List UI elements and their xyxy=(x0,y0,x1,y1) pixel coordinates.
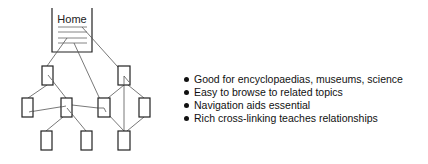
bullet-item: Easy to browse to related topics xyxy=(182,86,403,99)
page-nodes xyxy=(22,66,150,150)
home-label: Home xyxy=(57,13,86,25)
page-node xyxy=(22,98,33,117)
page-node xyxy=(61,98,72,117)
bullet-dot-icon xyxy=(184,77,189,82)
bullet-dot-icon xyxy=(184,90,189,95)
page-node xyxy=(81,131,92,150)
bullet-dot-icon xyxy=(184,103,189,108)
bullet-dot-icon xyxy=(184,116,189,121)
page-node xyxy=(41,131,52,150)
page-node xyxy=(139,98,150,117)
feature-bullet-list: Good for encyclopaedias, museums, scienc… xyxy=(182,73,403,125)
page-node xyxy=(42,66,53,85)
page-node xyxy=(98,98,110,117)
page-node xyxy=(118,131,130,150)
bullet-item: Rich cross-linking teaches relationships xyxy=(182,112,403,125)
web-structure-diagram: Home xyxy=(0,0,180,164)
bullet-item: Navigation aids essential xyxy=(182,99,403,112)
bullet-item: Good for encyclopaedias, museums, scienc… xyxy=(182,73,403,86)
home-page-node: Home xyxy=(52,8,92,52)
